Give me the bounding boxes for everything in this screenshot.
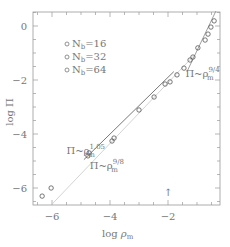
plot-frame <box>33 12 220 205</box>
axis-ticks <box>33 12 220 205</box>
x-axis-label: log ρm <box>102 228 134 241</box>
data-point <box>40 194 44 198</box>
legend-marker <box>65 68 69 72</box>
legend-marker <box>65 55 69 59</box>
data-point <box>209 25 213 29</box>
x-tick-label: −2 <box>161 211 176 222</box>
reference-line <box>52 55 194 204</box>
x-tick-label: −6 <box>45 211 60 222</box>
data-point <box>49 186 53 190</box>
data-point <box>206 32 210 36</box>
legend-item: Nb=16 <box>72 38 106 51</box>
annotation: Π~ρ9/4m <box>185 66 220 82</box>
annotation: Π~ρ9/8m <box>90 158 124 174</box>
data-point <box>203 38 207 42</box>
y-axis-label: log Π <box>4 98 15 126</box>
x-axis-label-log: log <box>102 228 121 239</box>
legend-marker <box>65 42 69 46</box>
annotations: Π~ρ1.05mΠ~ρ9/8mΠ~ρ9/4m↑ <box>67 66 221 198</box>
y-tick-label: −2 <box>12 75 27 86</box>
data-point <box>137 108 141 112</box>
x-axis-label-sub: m <box>127 233 134 241</box>
annotation: ↑ <box>164 187 172 198</box>
y-tick-label: 0 <box>21 21 27 32</box>
chart: −6−4−20−2−4−6 log ρm log Π Nb=16Nb=32Nb=… <box>0 0 230 247</box>
y-tick-label: −4 <box>12 129 27 140</box>
y-tick-label: −6 <box>12 183 27 194</box>
legend-item: Nb=32 <box>72 51 106 64</box>
data-point <box>212 19 216 23</box>
legend-item: Nb=64 <box>72 64 106 77</box>
legend: Nb=16Nb=32Nb=64 <box>65 38 106 77</box>
x-tick-label: −4 <box>103 211 118 222</box>
reference-line <box>187 11 216 72</box>
